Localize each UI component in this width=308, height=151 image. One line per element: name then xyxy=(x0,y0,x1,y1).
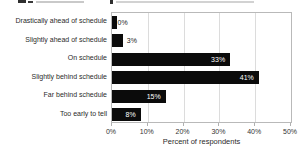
cropped-title-remnant xyxy=(116,1,254,3)
bar xyxy=(112,34,123,47)
bar-value-label: 41% xyxy=(240,71,254,84)
x-tick-label: 40% xyxy=(239,128,269,135)
gridline xyxy=(255,13,256,122)
bar-value-label: 33% xyxy=(211,53,225,66)
cropped-title-remnant xyxy=(110,0,113,4)
bar: 33% xyxy=(112,53,230,66)
bar-value-label: 0% xyxy=(118,16,128,29)
x-tick-mark xyxy=(290,123,291,126)
x-axis-title: Percent of respondents xyxy=(111,137,292,146)
plot-area: 0%3%33%41%15%8% xyxy=(111,12,292,123)
bar-value-label: 3% xyxy=(127,34,137,47)
bar: 15% xyxy=(112,90,166,103)
category-label: Drastically ahead of schedule xyxy=(0,12,107,31)
x-tick-label: 20% xyxy=(168,128,198,135)
x-tick-mark xyxy=(254,123,255,126)
x-tick-mark xyxy=(218,123,219,126)
x-tick-mark xyxy=(111,123,112,126)
bar-value-label: 15% xyxy=(147,90,161,103)
x-tick-label: 0% xyxy=(96,128,126,135)
gridline xyxy=(148,13,149,122)
bar: 41% xyxy=(112,71,259,84)
x-tick-label: 10% xyxy=(132,128,162,135)
x-tick-label: 50% xyxy=(275,128,305,135)
bar: 8% xyxy=(112,108,141,121)
x-tick-mark xyxy=(147,123,148,126)
bar-value-label: 8% xyxy=(126,108,136,121)
category-label: Slightly behind schedule xyxy=(0,68,107,87)
gridline xyxy=(184,13,185,122)
bar-chart-figure: Drastically ahead of scheduleSlightly ah… xyxy=(0,0,308,151)
category-axis: Drastically ahead of scheduleSlightly ah… xyxy=(0,12,107,123)
x-tick-label: 30% xyxy=(203,128,233,135)
x-tick-mark xyxy=(183,123,184,126)
cropped-title-remnant xyxy=(36,1,84,3)
category-label: Slightly ahead of schedule xyxy=(0,31,107,50)
category-label: Far behind schedule xyxy=(0,86,107,105)
cropped-title-remnant xyxy=(18,0,26,3)
category-label: On schedule xyxy=(0,49,107,68)
bar xyxy=(112,16,117,29)
cropped-title-remnant xyxy=(28,1,33,3)
gridline xyxy=(219,13,220,122)
category-label: Too early to tell xyxy=(0,105,107,124)
